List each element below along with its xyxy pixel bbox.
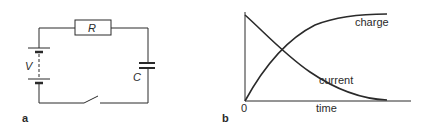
capacitor-label: C [133, 71, 141, 83]
origin-label: 0 [241, 102, 247, 114]
charge-curve-label: charge [355, 16, 389, 28]
wire-bottom-left [39, 83, 84, 103]
wire-top-left [39, 28, 75, 48]
panel-label-b: b [222, 112, 229, 124]
battery-label: V [25, 60, 34, 72]
current-curve-label: current [319, 74, 353, 86]
resistor-label: R [88, 22, 96, 34]
x-axis-label: time [316, 102, 337, 114]
switch-blade [84, 96, 98, 103]
wire-top-right [111, 28, 148, 63]
panel-label-a: a [22, 112, 29, 124]
